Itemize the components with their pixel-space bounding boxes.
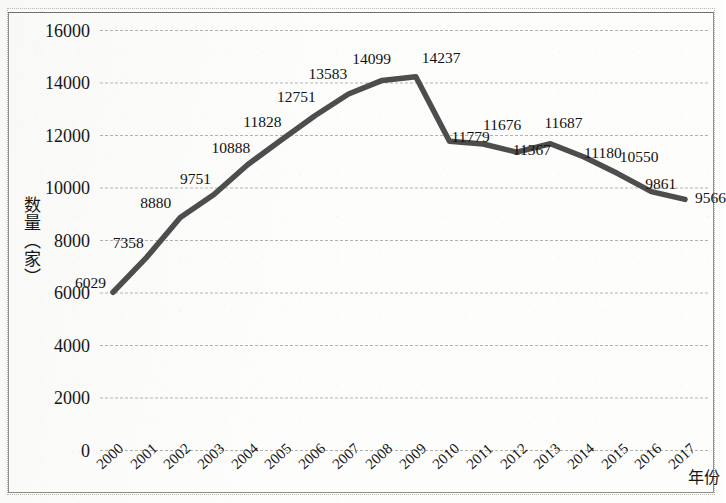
y-axis-tick-label: 0 (0, 442, 90, 460)
data-point-label: 11687 (544, 115, 582, 131)
data-point-label: 9566 (695, 190, 726, 206)
data-point-label: 7358 (113, 235, 144, 251)
data-point-label: 11676 (483, 117, 521, 133)
data-point-label: 14237 (422, 50, 461, 66)
gridline-group (100, 31, 708, 451)
x-axis-title: 年份 (688, 470, 720, 486)
y-axis-tick-label: 2000 (0, 389, 90, 407)
y-axis-tick-label: 8000 (0, 232, 90, 250)
data-point-label: 12751 (277, 89, 316, 105)
y-axis-tick-label: 4000 (0, 337, 90, 355)
data-point-label: 13583 (309, 66, 348, 82)
y-axis-title: 数量（家） (18, 196, 40, 286)
data-point-label: 14099 (352, 51, 391, 67)
y-axis-tick-label: 10000 (0, 179, 90, 197)
data-point-label: 10550 (620, 149, 659, 165)
data-point-label: 8880 (140, 195, 171, 211)
y-axis-tick-label: 16000 (0, 22, 90, 40)
y-axis-tick-label: 14000 (0, 74, 90, 92)
data-point-label: 11180 (584, 145, 622, 161)
data-point-label: 10888 (212, 140, 251, 156)
data-point-label: 9751 (180, 171, 211, 187)
data-point-label: 11828 (243, 114, 281, 130)
y-axis-tick-label: 12000 (0, 127, 90, 145)
data-point-label: 9861 (645, 176, 676, 192)
data-point-label: 11367 (513, 142, 551, 158)
data-point-label: 6029 (75, 275, 106, 291)
